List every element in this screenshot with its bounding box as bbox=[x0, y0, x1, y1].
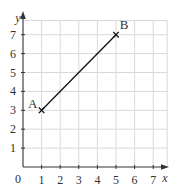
point-markers: AB bbox=[28, 17, 129, 113]
x-axis-label: x bbox=[161, 171, 168, 185]
x-tick-label: 2 bbox=[57, 173, 63, 187]
y-tick-label: 5 bbox=[10, 66, 16, 80]
x-tick-label: 1 bbox=[39, 173, 45, 187]
origin-label: 0 bbox=[15, 172, 21, 186]
x-tick-label: 4 bbox=[94, 173, 100, 187]
y-tick-label: 3 bbox=[10, 103, 16, 117]
y-axis-arrow-icon bbox=[20, 11, 26, 19]
grid-lines bbox=[23, 21, 167, 167]
y-tick-label: 1 bbox=[10, 141, 16, 155]
x-tick-label: 3 bbox=[76, 173, 82, 187]
x-axis-arrow-icon bbox=[161, 164, 169, 170]
y-axis-label: y bbox=[14, 11, 21, 25]
coordinate-plot: 123456712345670xy AB bbox=[0, 0, 182, 193]
y-tick-label: 7 bbox=[10, 28, 16, 42]
x-tick-label: 6 bbox=[132, 173, 138, 187]
y-tick-label: 6 bbox=[10, 47, 16, 61]
y-tick-label: 4 bbox=[10, 84, 16, 98]
x-tick-label: 7 bbox=[150, 173, 156, 187]
plot-svg: 123456712345670xy AB bbox=[0, 0, 182, 193]
point-label: B bbox=[120, 17, 129, 32]
y-tick-label: 2 bbox=[10, 122, 16, 136]
x-tick-label: 5 bbox=[113, 173, 119, 187]
point-label: A bbox=[28, 96, 38, 111]
